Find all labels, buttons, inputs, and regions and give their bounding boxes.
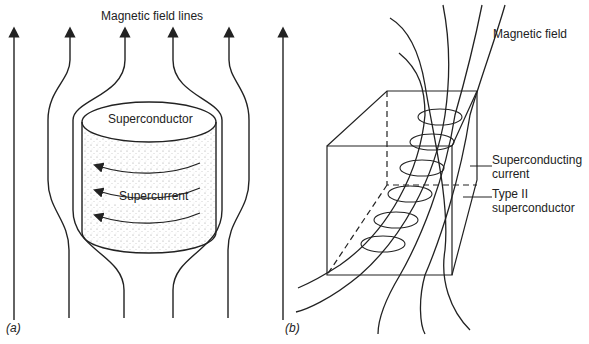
superconducting-current-label-2: current: [492, 168, 529, 181]
type-ii-label-2: superconductor: [492, 202, 575, 215]
superconductor-diagram: Magnetic field lines Superconductor Supe…: [0, 0, 589, 344]
magnetic-field-label: Magnetic field: [493, 28, 567, 41]
panel-b-tag: (b): [285, 322, 300, 335]
panel-a-tag: (a): [6, 322, 21, 335]
superconductor-label: Superconductor: [108, 113, 193, 126]
superconducting-current-label-1: Superconducting: [492, 154, 582, 167]
field-lines-title: Magnetic field lines: [101, 10, 203, 23]
type-ii-label-1: Type II: [492, 188, 528, 201]
supercurrent-label: Supercurrent: [119, 190, 188, 203]
